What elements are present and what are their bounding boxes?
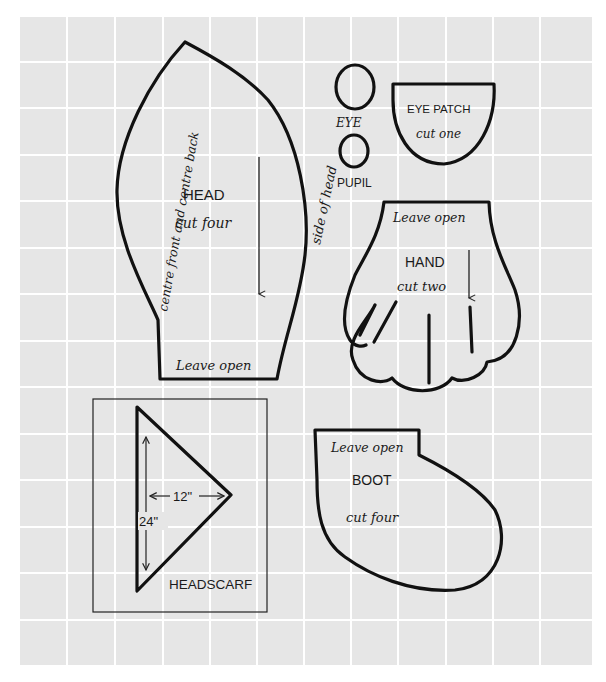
pupil-title: PUPIL [337, 176, 372, 190]
eye-title: EYE [335, 116, 362, 130]
boot-instruction: cut four [346, 510, 399, 525]
eye-patch-instruction: cut one [416, 127, 461, 141]
head-opening-label: Leave open [175, 358, 251, 373]
headscarf-width-dimension: 12" [173, 489, 192, 504]
eye-patch-title: EYE PATCH [407, 103, 470, 115]
headscarf-height-dimension: 24" [139, 514, 158, 529]
hand-title: HAND [405, 254, 445, 270]
headscarf-title: HEADSCARF [169, 577, 252, 592]
hand-finger-line-2 [470, 307, 472, 352]
boot-opening-label: Leave open [330, 440, 404, 455]
hand-opening-label: Leave open [392, 210, 466, 225]
hand-instruction: cut two [397, 279, 446, 294]
pattern-sheet: HEAD cut four centre front and centre ba… [0, 0, 606, 682]
boot-title: BOOT [352, 472, 392, 488]
